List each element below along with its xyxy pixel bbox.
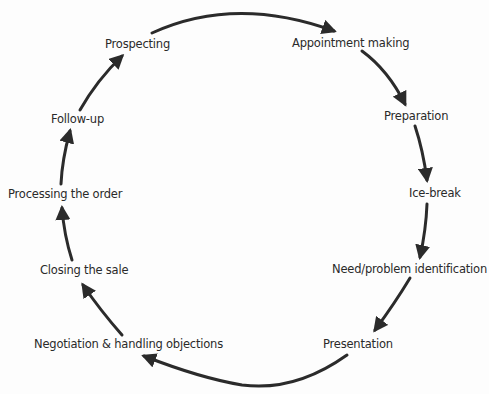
edge-negotiation-closing bbox=[83, 285, 122, 335]
stage-follow-up: Follow-up bbox=[51, 112, 104, 126]
edge-preparation-icebreak bbox=[415, 126, 427, 180]
stage-processing-the-order: Processing the order bbox=[8, 187, 122, 201]
stage-preparation: Preparation bbox=[384, 109, 448, 123]
edge-presentation-negotiation bbox=[144, 355, 347, 386]
sales-cycle-diagram: Prospecting Appointment making Preparati… bbox=[0, 0, 489, 394]
edge-need-presentation bbox=[375, 278, 410, 330]
edge-prospecting-appointment bbox=[152, 13, 334, 33]
stage-presentation: Presentation bbox=[323, 337, 393, 351]
stage-need-problem-identification: Need/problem identification bbox=[332, 262, 487, 276]
edge-appointment-preparation bbox=[362, 51, 405, 104]
stage-ice-break: Ice-break bbox=[409, 186, 461, 200]
stage-prospecting: Prospecting bbox=[105, 37, 170, 51]
edge-processing-followup bbox=[61, 131, 70, 184]
edge-followup-prospecting bbox=[80, 56, 122, 110]
stage-negotiation-handling-objections: Negotiation & handling objections bbox=[34, 337, 223, 351]
edge-icebreak-need bbox=[420, 204, 427, 257]
stage-appointment-making: Appointment making bbox=[292, 36, 409, 50]
stage-closing-the-sale: Closing the sale bbox=[40, 263, 128, 277]
edge-closing-processing bbox=[62, 208, 72, 260]
